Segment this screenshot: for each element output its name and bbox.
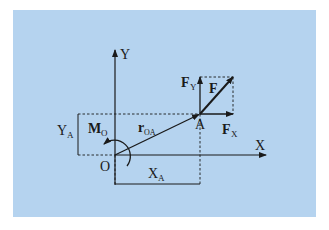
force-y-label: F [181,75,190,90]
x-axis-label: X [255,138,265,153]
dimension-xa-label: X [148,166,158,181]
dimension-xa-subscript: A [158,173,165,183]
force-x-label: F [222,122,231,137]
force-x-subscript: X [231,129,238,139]
force-label: F [209,81,218,96]
moment-subscript: O [101,128,108,138]
origin-label: O [100,159,110,174]
force-y-subscript: Y [190,82,197,92]
position-vector-roa [115,115,199,156]
y-axis-label: Y [120,47,130,62]
position-vector-subscript: OA [144,128,156,137]
dimension-ya-subscript: A [67,130,74,140]
moment-label: M [88,121,101,136]
point-a-label: A [195,117,206,132]
dimension-ya-label: Y [57,123,67,138]
moment-diagram: Y X O A F F Y F X r OA M O Y A X A [0,0,329,230]
